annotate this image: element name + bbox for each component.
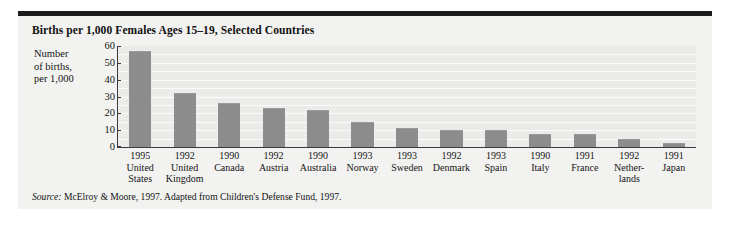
y-axis-title: Number of births, per 1,000 [34,48,94,86]
bar [440,130,462,147]
y-tick-mark [117,97,121,98]
y-tick-mark [117,130,121,131]
y-tick-mark [117,46,121,47]
y-tick-label: 30 [105,92,116,102]
y-tick-label: 50 [105,58,116,68]
bar [129,51,151,147]
bar [574,134,596,147]
bar [351,122,373,147]
y-tick-mark [117,113,121,114]
bar [218,103,240,147]
y-axis-title-line-1: Number [34,48,94,61]
bar [485,130,507,147]
x-axis-label: 1991Japan [645,150,703,173]
y-axis-tick-labels: 0102030405060 [97,46,115,148]
x-axis-label-country: Japan [645,162,703,174]
source-text: McElroy & Moore, 1997. Adapted from Chil… [61,191,341,202]
y-axis-title-line-2: of births, [34,61,94,74]
x-axis-label-country: Kingdom [155,173,213,185]
y-tick-label: 40 [105,75,116,85]
figure-panel: Births per 1,000 Females Ages 15–19, Sel… [18,11,712,209]
x-axis-label-country: lands [600,173,658,185]
y-tick-mark [117,80,121,81]
y-axis-title-line-3: per 1,000 [34,73,94,86]
y-tick-label: 60 [105,41,116,51]
bar [174,93,196,147]
bar [618,139,640,147]
x-axis-baseline [117,147,696,148]
x-axis-label-year: 1991 [645,150,703,162]
bar [396,128,418,147]
source-note: Source: McElroy & Moore, 1997. Adapted f… [32,191,341,202]
y-tick-label: 20 [105,108,116,118]
y-tick-mark [117,63,121,64]
x-axis-category-labels: 1995UnitedStates1992UnitedKingdom1990Can… [97,150,697,196]
chart-title: Births per 1,000 Females Ages 15–19, Sel… [32,24,314,36]
bar [263,108,285,147]
bar [307,110,329,147]
bar-series [118,46,696,147]
y-tick-mark [117,146,121,147]
plot-area [118,46,696,147]
y-tick-label: 10 [105,125,116,135]
source-label: Source: [32,191,61,202]
top-rule-decoration [18,11,712,16]
bar [529,134,551,147]
plot-wrapper: 0102030405060 [97,46,697,158]
